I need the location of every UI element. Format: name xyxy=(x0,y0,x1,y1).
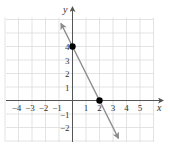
y-tick-label: 4 xyxy=(65,42,70,52)
data-line xyxy=(61,24,118,139)
x-tick-label: 5 xyxy=(138,103,143,113)
x-tick-label: 4 xyxy=(124,103,129,113)
coordinate-plane: −4−3−2−1123454321−1−2 x y xyxy=(0,0,170,149)
y-tick-label: −1 xyxy=(60,110,70,120)
data-point xyxy=(69,43,75,49)
x-tick-label: −3 xyxy=(25,103,35,113)
x-tick-label: 3 xyxy=(111,103,116,113)
y-tick-label: 1 xyxy=(65,83,70,93)
x-tick-label: −2 xyxy=(39,103,49,113)
x-tick-label: −4 xyxy=(12,103,22,113)
y-tick-label: 2 xyxy=(65,69,70,79)
y-tick-label: 3 xyxy=(65,56,70,66)
y-tick-label: −2 xyxy=(60,123,70,133)
x-tick-label: 1 xyxy=(84,103,89,113)
x-axis-label: x xyxy=(156,102,162,113)
axes xyxy=(6,7,163,142)
y-axis-label: y xyxy=(62,4,68,15)
plotted-line xyxy=(61,24,118,139)
grid-lines xyxy=(5,18,154,143)
data-point xyxy=(96,97,102,103)
